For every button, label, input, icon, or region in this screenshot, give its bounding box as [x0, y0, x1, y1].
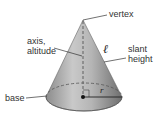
vertex-label: vertex — [109, 10, 134, 19]
axis-label-line2: altitude — [27, 47, 56, 56]
vertex-leader — [83, 15, 107, 20]
slant-height-label-line1: slant — [128, 45, 147, 54]
slant-height-symbol: ℓ — [103, 43, 108, 55]
axis-label-line1: axis, — [27, 37, 46, 46]
radius-symbol: r — [100, 86, 104, 95]
slant-leader — [104, 58, 126, 62]
base-leader — [26, 96, 47, 98]
base-label: base — [5, 94, 25, 103]
center-point — [81, 95, 85, 99]
slant-height-label-line2: height — [128, 55, 153, 64]
